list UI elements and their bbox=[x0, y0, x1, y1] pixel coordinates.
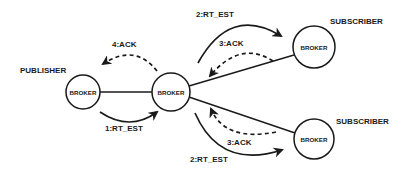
subscriber-top-broker-node: BROKER bbox=[293, 26, 335, 68]
arrow-step3-bottom-ack bbox=[211, 109, 276, 134]
subscriber-top-role-label: SUBSCRIBER bbox=[330, 17, 383, 26]
arrow-step2-bottom-rt-est bbox=[195, 113, 282, 155]
central-broker-node: BROKER bbox=[152, 73, 190, 111]
link-central-to-subscriber-bottom bbox=[189, 97, 295, 133]
message-step3-bottom-label: 3:ACK bbox=[227, 138, 252, 147]
publisher-broker-node: BROKER bbox=[66, 75, 100, 109]
arrow-step4-ack bbox=[103, 55, 157, 71]
message-step2-bottom-label: 2:RT_EST bbox=[190, 155, 228, 164]
arrow-step1-rt-est bbox=[100, 112, 157, 122]
message-step3-top-label: 3:ACK bbox=[219, 39, 244, 48]
subscriber-bottom-broker-node: BROKER bbox=[294, 119, 334, 159]
subscriber-bottom-role-label: SUBSCRIBER bbox=[336, 117, 389, 126]
message-step4-label: 4:ACK bbox=[112, 40, 137, 49]
central-broker-label: BROKER bbox=[158, 89, 185, 96]
subscriber-bottom-broker-label: BROKER bbox=[301, 136, 328, 143]
subscriber-top-broker-label: BROKER bbox=[301, 44, 328, 51]
publisher-broker-label: BROKER bbox=[70, 89, 97, 96]
broker-message-flow-diagram: BROKER BROKER BROKER BROKER PUBLISHER SU… bbox=[0, 0, 409, 173]
message-step1-label: 1:RT_EST bbox=[105, 124, 143, 133]
message-step2-top-label: 2:RT_EST bbox=[196, 10, 234, 19]
link-central-to-subscriber-top bbox=[189, 55, 294, 86]
publisher-role-label: PUBLISHER bbox=[20, 66, 66, 75]
